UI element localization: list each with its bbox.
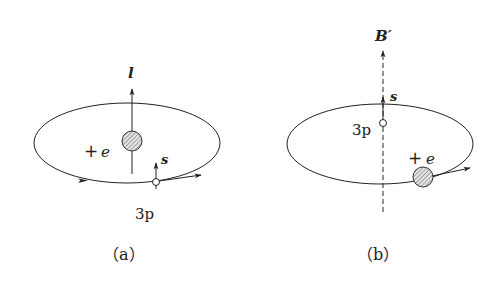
caption-a: （a） xyxy=(103,245,145,264)
nucleus-orbit-b xyxy=(287,104,473,184)
plus-sign-b: + xyxy=(408,148,422,168)
panel-a: l + e s 3p （a） xyxy=(34,64,220,264)
3p-label-a: 3p xyxy=(135,205,154,223)
spin-orbit-diagram: l + e s 3p （a） B′ s 3p + e （b） xyxy=(0,0,500,283)
nucleus-b xyxy=(413,167,433,187)
panel-b: B′ s 3p + e （b） xyxy=(287,27,473,264)
charge-e-a: e xyxy=(101,143,110,161)
charge-e-b: e xyxy=(426,150,435,168)
s-label-a: s xyxy=(161,152,169,167)
electron-3p-b xyxy=(380,120,387,127)
3p-label-b: 3p xyxy=(352,121,371,139)
plus-sign-a: + xyxy=(84,141,98,161)
s-label-b: s xyxy=(390,89,398,104)
electron-3p-a xyxy=(153,179,160,186)
b-prime-label: B′ xyxy=(374,27,392,45)
caption-b: （b） xyxy=(357,245,399,264)
nucleus-a xyxy=(122,131,142,151)
l-label: l xyxy=(128,64,134,82)
velocity-vector-b xyxy=(432,168,470,176)
